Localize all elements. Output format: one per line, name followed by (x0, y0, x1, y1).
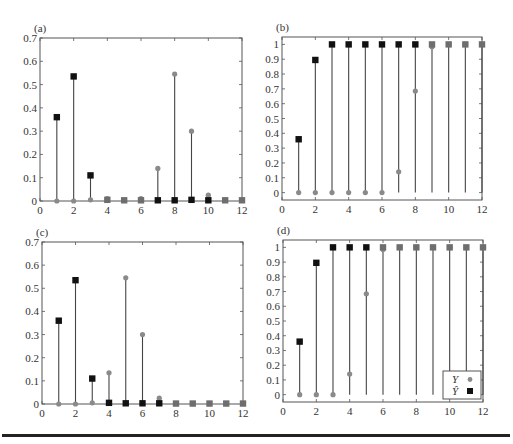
yhat-marker (379, 41, 385, 47)
y-tick-label: 0.2 (265, 157, 279, 169)
yhat-marker (205, 197, 211, 203)
yhat-marker (190, 400, 196, 406)
y-marker (347, 371, 352, 376)
x-tick-label: 12 (238, 407, 249, 419)
yhat-marker (106, 400, 112, 406)
y-tick-label: 1 (275, 241, 281, 253)
yhat-marker (430, 244, 436, 250)
y-marker (106, 370, 111, 375)
y-tick-label: 0 (32, 195, 38, 207)
legend-y-marker (468, 377, 473, 382)
x-tick-label: 8 (173, 407, 179, 419)
y-tick-label: 0 (34, 398, 40, 410)
axes-frame (40, 38, 242, 201)
y-tick-label: 0.1 (25, 375, 39, 387)
y-tick-label: 0.6 (265, 98, 279, 110)
x-tick-label: 12 (237, 204, 248, 216)
yhat-marker (429, 41, 435, 47)
y-marker (363, 190, 368, 195)
y-tick-label: 0 (275, 389, 281, 401)
panel-c: (c)02468101200.10.20.30.40.50.60.7 (25, 226, 248, 419)
x-tick-label: 0 (279, 203, 285, 215)
yhat-marker (346, 244, 352, 250)
y-marker (73, 401, 78, 406)
yhat-marker (239, 197, 245, 203)
yhat-marker (480, 244, 486, 250)
yhat-marker (479, 41, 485, 47)
x-tick-label: 8 (414, 405, 420, 417)
legend-yhat-marker (467, 388, 473, 394)
y-tick-label: 0.3 (265, 142, 279, 154)
x-tick-label: 6 (140, 407, 146, 419)
yhat-marker (156, 400, 162, 406)
x-tick-label: 6 (138, 204, 144, 216)
x-tick-label: 12 (477, 203, 488, 215)
y-tick-label: 1 (274, 38, 280, 50)
yhat-marker (54, 114, 60, 120)
yhat-marker (330, 244, 336, 250)
y-marker (396, 169, 401, 174)
yhat-marker (188, 197, 194, 203)
x-tick-label: 4 (105, 204, 111, 216)
yhat-marker (173, 400, 179, 406)
y-marker (364, 291, 369, 296)
y-tick-label: 0.5 (23, 79, 37, 91)
panel-label: (b) (276, 21, 289, 34)
y-tick-label: 0.4 (25, 305, 39, 317)
x-tick-label: 2 (71, 204, 77, 216)
yhat-marker (139, 400, 145, 406)
y-tick-label: 0.2 (266, 359, 280, 371)
yhat-marker (121, 197, 127, 203)
x-tick-label: 10 (444, 405, 456, 417)
yhat-marker (56, 317, 62, 323)
yhat-marker (123, 400, 129, 406)
y-marker (329, 190, 334, 195)
y-marker (330, 392, 335, 397)
y-tick-label: 0.9 (265, 53, 279, 65)
yhat-marker (445, 41, 451, 47)
y-tick-label: 0.2 (23, 148, 37, 160)
y-tick-label: 0.7 (25, 236, 39, 248)
panel-a: (a)02468101200.10.20.30.40.50.60.7 (23, 22, 247, 216)
y-marker (155, 166, 160, 171)
x-tick-label: 10 (204, 407, 216, 419)
y-marker (413, 88, 418, 93)
y-tick-label: 0.6 (266, 300, 280, 312)
x-tick-label: 2 (73, 407, 79, 419)
yhat-marker (396, 244, 402, 250)
y-marker (314, 392, 319, 397)
x-tick-label: 6 (380, 405, 386, 417)
y-tick-label: 0.2 (25, 352, 39, 364)
x-tick-label: 4 (106, 407, 112, 419)
yhat-marker (413, 244, 419, 250)
x-tick-label: 8 (413, 203, 419, 215)
y-tick-label: 0.3 (266, 344, 280, 356)
yhat-marker (72, 277, 78, 283)
yhat-marker (313, 260, 319, 266)
yhat-marker (312, 57, 318, 63)
yhat-marker (206, 400, 212, 406)
yhat-marker (240, 400, 246, 406)
y-tick-label: 0 (274, 187, 280, 199)
y-marker (346, 190, 351, 195)
y-marker (54, 198, 59, 203)
yhat-marker (104, 197, 110, 203)
x-tick-label: 12 (478, 405, 489, 417)
y-marker (56, 401, 61, 406)
y-tick-label: 0.8 (265, 68, 279, 80)
y-marker (71, 198, 76, 203)
yhat-marker (380, 244, 386, 250)
y-tick-label: 0.5 (266, 315, 280, 327)
yhat-marker (462, 41, 468, 47)
panel-b: (b)02468101200.10.20.30.40.50.60.70.80.9… (265, 21, 487, 215)
y-tick-label: 0.7 (266, 286, 280, 298)
yhat-marker (395, 41, 401, 47)
x-tick-label: 4 (347, 405, 353, 417)
y-marker (379, 190, 384, 195)
x-tick-label: 4 (346, 203, 352, 215)
y-marker (88, 197, 93, 202)
x-tick-label: 10 (443, 203, 455, 215)
yhat-marker (412, 41, 418, 47)
y-marker (157, 396, 162, 401)
y-marker (189, 129, 194, 134)
